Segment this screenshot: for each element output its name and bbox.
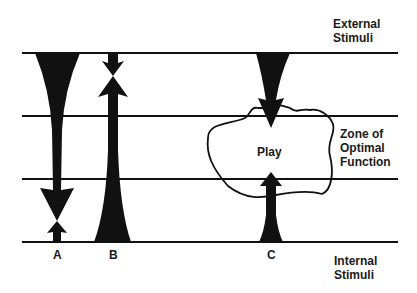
column-b-arrows xyxy=(94,53,131,242)
zone-label-line1: Zone of xyxy=(340,127,391,141)
internal-label-line2: Stimuli xyxy=(334,268,377,282)
column-b-label: B xyxy=(109,248,118,262)
zone-label: Zone of Optimal Function xyxy=(340,127,391,169)
zone-label-line3: Function xyxy=(340,155,391,169)
external-label-line2: Stimuli xyxy=(333,31,380,45)
external-label-line1: External xyxy=(333,17,380,31)
column-a-arrows xyxy=(35,53,80,242)
play-label: Play xyxy=(257,145,282,159)
column-c-label: C xyxy=(267,248,276,262)
external-stimuli-label: External Stimuli xyxy=(333,17,380,45)
column-a-label: A xyxy=(53,248,62,262)
internal-label-line1: Internal xyxy=(334,254,377,268)
internal-stimuli-label: Internal Stimuli xyxy=(334,254,377,282)
zone-label-line2: Optimal xyxy=(340,141,391,155)
